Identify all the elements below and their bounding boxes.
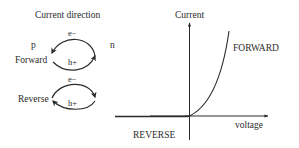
forward-curve: [187, 31, 229, 117]
forward-hole-label: h+: [68, 58, 77, 67]
n-region-label: n: [110, 41, 115, 51]
reverse-electron-label: e−: [68, 75, 77, 84]
forward-label: Forward: [15, 56, 47, 66]
reverse-label: Reverse: [18, 95, 49, 105]
current-axis-label: Current: [175, 11, 204, 21]
reverse-curve: [115, 116, 189, 117]
p-region-label: p: [31, 41, 36, 51]
current-direction-title: Current direction: [35, 11, 100, 21]
forward-electron-arrow: [52, 39, 95, 56]
forward-electron-label: e−: [68, 29, 77, 38]
iv-curve: [115, 31, 229, 117]
voltage-axis-label: voltage: [235, 121, 263, 131]
reverse-curve-label: REVERSE: [133, 131, 175, 141]
reverse-electron-arrow: [52, 84, 95, 98]
diode-current-diagram: Current direction p n e− Forward h+ e− R…: [0, 0, 299, 148]
forward-curve-label: FORWARD: [233, 44, 279, 54]
reverse-hole-label: h+: [68, 99, 77, 108]
